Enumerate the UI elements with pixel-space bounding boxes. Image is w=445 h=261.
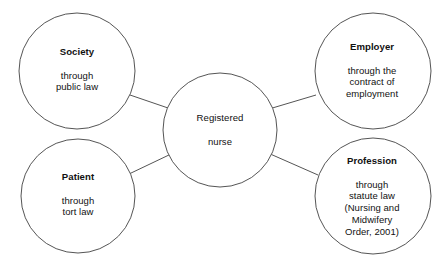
connector-society-to-center	[130, 95, 171, 109]
connector-center-to-employer	[269, 95, 316, 109]
node-circle-patient[interactable]	[21, 139, 135, 253]
connector-patient-to-center	[129, 154, 171, 174]
connector-center-to-profession	[268, 153, 318, 175]
node-circle-society[interactable]	[19, 13, 135, 129]
node-circle-profession[interactable]	[315, 138, 431, 254]
node-circle-employer[interactable]	[315, 13, 431, 129]
diagram-canvas: Society through public law Employer thro…	[0, 0, 445, 261]
node-circle-registered-nurse[interactable]	[163, 73, 277, 187]
diagram-vector-layer	[0, 0, 445, 261]
